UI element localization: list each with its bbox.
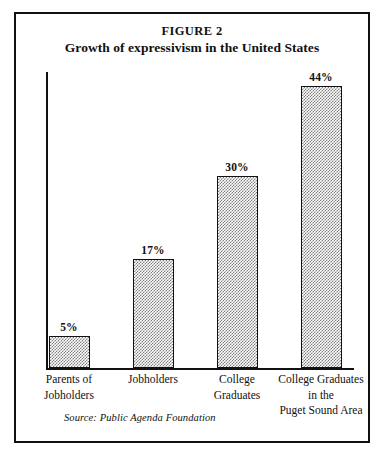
bar-value-label: 30% [203, 161, 271, 173]
bar-rect [217, 176, 258, 368]
figure-number: FIGURE 2 [16, 24, 368, 40]
category-label-line: Jobholders [107, 372, 199, 388]
category-label-line: College [191, 372, 283, 388]
plot-area: 5% 17% 30% 44% Parents of Jobholders [32, 62, 356, 392]
source-note: Source: Public Agenda Foundation [64, 412, 216, 423]
category-label-line: College Graduates [275, 372, 367, 388]
bar-value-label: 44% [287, 71, 355, 83]
figure-title: Growth of expressivism in the United Sta… [16, 40, 368, 57]
figure-page: FIGURE 2 Growth of expressivism in the U… [0, 0, 382, 455]
figure-frame: FIGURE 2 Growth of expressivism in the U… [14, 12, 370, 443]
category-label-line: Jobholders [23, 388, 115, 404]
category-label-line: Puget Sound Area [275, 403, 367, 419]
bar-group-jobholders: 17% [119, 244, 187, 368]
category-label-college-graduates: College Graduates [191, 372, 283, 403]
bar-rect [133, 259, 174, 368]
category-label-line: Graduates [191, 388, 283, 404]
x-axis-baseline [46, 368, 354, 370]
bar-group-college-graduates: 30% [203, 161, 271, 368]
bar-value-label: 5% [35, 321, 103, 333]
bar-value-label: 17% [119, 244, 187, 256]
category-label-line: Parents of [23, 372, 115, 388]
bar-rect [49, 336, 90, 368]
title-block: FIGURE 2 Growth of expressivism in the U… [16, 24, 368, 57]
bar-group-college-graduates-puget-sound: 44% [287, 71, 355, 368]
bar-rect [301, 86, 342, 368]
category-label-line: in the [275, 388, 367, 404]
bar-group-parents-of-jobholders: 5% [35, 321, 103, 368]
category-label-parents-of-jobholders: Parents of Jobholders [23, 372, 115, 403]
category-label-jobholders: Jobholders [107, 372, 199, 388]
category-label-college-graduates-puget-sound: College Graduates in the Puget Sound Are… [275, 372, 367, 419]
